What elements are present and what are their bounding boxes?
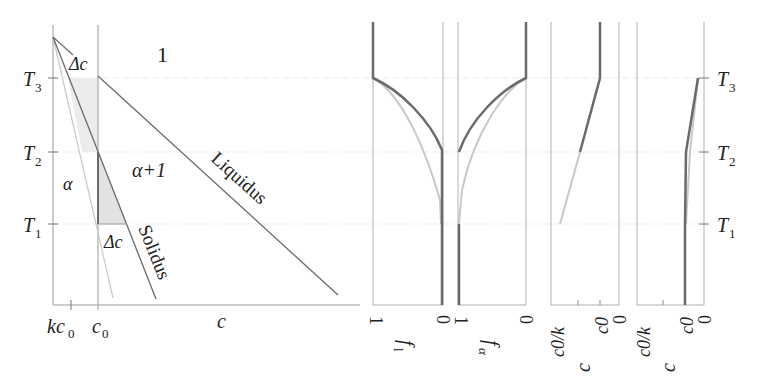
panel-c-liquid: c0/k c0 0 c: [548, 22, 629, 372]
x-label-kc0: kc 0: [47, 315, 75, 341]
svg-text:1: 1: [35, 226, 42, 241]
region-two-phase-label: α+1: [132, 159, 166, 181]
region-solid-label: α: [63, 174, 73, 194]
x-axis-label: c: [217, 310, 226, 332]
svg-text:f: f: [480, 340, 503, 348]
svg-text:0: 0: [68, 326, 75, 341]
svg-text:kc: kc: [47, 315, 65, 337]
svg-text:c: c: [657, 363, 679, 372]
svg-text:0: 0: [433, 315, 453, 324]
svg-text:3: 3: [35, 80, 42, 95]
solidification-diagram: 1 α+1 α Δc Δc Liquidus Solidus T 3 T 2 T…: [0, 0, 758, 385]
svg-text:f: f: [395, 340, 418, 348]
panel-f-liquid: 1 0 f l: [366, 22, 453, 352]
svg-text:l: l: [391, 348, 406, 352]
delta-c-top-label: Δc: [68, 54, 88, 74]
svg-text:c0: c0: [677, 317, 697, 334]
svg-text:1: 1: [729, 226, 736, 241]
panel-c-alpha: c0/k c0 0 c: [634, 22, 714, 372]
svg-text:α: α: [476, 348, 491, 356]
svg-text:c: c: [92, 315, 101, 337]
svg-text:3: 3: [729, 80, 736, 95]
svg-text:1: 1: [451, 316, 471, 325]
y-tick-t1: T 1: [23, 214, 42, 241]
svg-text:0: 0: [609, 315, 629, 324]
temperature-guides: [53, 78, 704, 224]
svg-text:c0/k: c0/k: [634, 326, 654, 357]
liquidus-label: Liquidus: [207, 147, 271, 208]
svg-text:c0: c0: [592, 317, 612, 334]
svg-text:0: 0: [102, 326, 109, 341]
svg-text:1: 1: [366, 316, 386, 325]
right-t3-label: T 3: [717, 68, 736, 95]
svg-text:2: 2: [35, 154, 42, 169]
svg-text:0: 0: [516, 315, 536, 324]
region-liquid-label: 1: [157, 42, 168, 67]
panel-f-alpha: 1 0 f α: [451, 22, 536, 356]
right-t2-label: T 2: [717, 142, 736, 169]
svg-text:c0/k: c0/k: [548, 326, 568, 357]
svg-text:c: c: [572, 363, 594, 372]
solidus-label: Solidus: [134, 222, 175, 283]
liquidus-line: [98, 76, 338, 295]
y-tick-t2: T 2: [23, 142, 42, 169]
delta-c-bottom-label: Δc: [103, 232, 123, 252]
svg-text:2: 2: [729, 154, 736, 169]
y-tick-t3: T 3: [23, 68, 42, 95]
right-t1-label: T 1: [717, 214, 736, 241]
x-label-c0: c 0: [92, 315, 109, 341]
phase-diagram: 1 α+1 α Δc Δc Liquidus Solidus T 3 T 2 T…: [23, 25, 360, 341]
svg-text:0: 0: [694, 315, 714, 324]
